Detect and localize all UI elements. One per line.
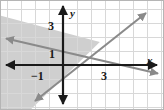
graph-canvas	[0, 0, 164, 110]
x-tick-label-3: 3	[101, 70, 107, 82]
x-tick-label-neg1: −1	[31, 70, 44, 82]
y-axis-label: y	[70, 8, 75, 19]
y-tick-label-3: 3	[48, 20, 54, 32]
y-tick-label-1: 1	[49, 48, 55, 60]
graph-figure: y x 3 1 −1 3	[0, 0, 164, 110]
x-axis-label: x	[147, 55, 153, 66]
